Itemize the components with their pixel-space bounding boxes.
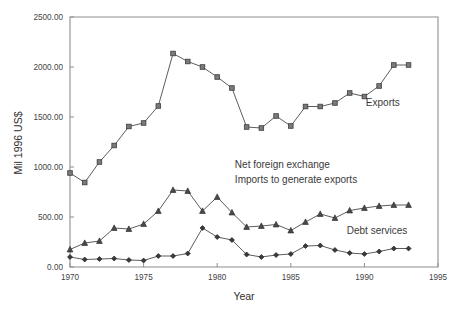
data-point	[406, 63, 411, 68]
y-axis-title: Mil 1996 US$	[12, 111, 24, 174]
data-point	[347, 91, 352, 96]
data-point	[377, 84, 382, 89]
data-point	[141, 121, 146, 126]
y-tick-label: 2000.00	[33, 63, 63, 72]
data-point	[230, 86, 235, 91]
data-point	[127, 124, 132, 129]
data-point	[68, 171, 73, 176]
chart-background	[0, 0, 458, 315]
y-tick-label: 1000.00	[33, 163, 63, 172]
chart-figure: 197019751980198519901995 0.00500.001000.…	[0, 0, 458, 315]
line-chart: 197019751980198519901995 0.00500.001000.…	[0, 0, 458, 315]
annotation-imports-to-generate-exports: Imports to generate exports	[235, 174, 357, 185]
data-point	[112, 143, 117, 148]
data-point	[200, 65, 205, 70]
data-point	[244, 125, 249, 130]
data-point	[333, 101, 338, 106]
x-tick-label: 1990	[355, 273, 374, 282]
data-point	[185, 59, 190, 64]
data-point	[156, 104, 161, 109]
x-tick-label: 1985	[282, 273, 301, 282]
y-tick-label: 500.00	[38, 213, 63, 222]
y-tick-label: 1500.00	[33, 113, 63, 122]
data-point	[289, 124, 294, 129]
x-tick-label: 1980	[208, 273, 227, 282]
data-point	[259, 126, 264, 131]
annotation-exports: Exports	[366, 97, 400, 108]
x-tick-label: 1975	[134, 273, 153, 282]
data-point	[303, 104, 308, 109]
data-point	[97, 160, 102, 165]
data-point	[392, 63, 397, 68]
x-axis-title: Year	[233, 290, 255, 302]
x-tick-label: 1995	[429, 273, 448, 282]
y-tick-label: 2500.00	[33, 13, 63, 22]
data-point	[274, 114, 279, 119]
data-point	[171, 51, 176, 56]
annotation-debt-services: Debt services	[347, 225, 408, 236]
data-point	[82, 180, 87, 185]
annotation-net-foreign-exchange: Net foreign exchange	[235, 159, 331, 170]
data-point	[215, 75, 220, 80]
data-point	[318, 104, 323, 109]
y-tick-label: 0.00	[47, 263, 63, 272]
x-tick-label: 1970	[61, 273, 80, 282]
